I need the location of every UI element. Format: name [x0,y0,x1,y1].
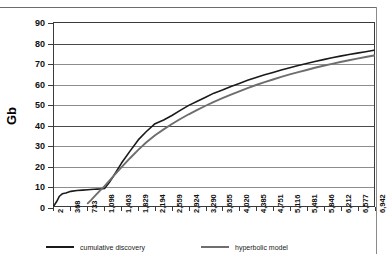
x-tick-mark [121,207,122,211]
x-tick-label: 2,924 [192,194,201,213]
x-tick-label: 2,194 [158,194,167,213]
y-tick-label: 10 [35,182,45,192]
x-tick-mark [189,207,190,211]
y-tick-label: 70 [35,59,45,69]
x-tick-label: 6,577 [361,194,370,213]
x-tick-mark [104,207,105,211]
legend-item-cumulative-discovery: cumulative discovery [46,240,145,254]
document-frame-right-border [376,7,377,254]
x-tick-mark [273,207,274,211]
y-tick-label: 20 [35,162,45,172]
x-tick-mark [138,207,139,211]
series-line-hyperbolic-model [88,56,374,204]
x-tick-mark [358,207,359,211]
y-tick-label: 60 [35,80,45,90]
y-tick-label: 0 [40,203,45,213]
y-tick-label: 30 [35,141,45,151]
x-tick-mark [341,207,342,211]
legend-item-hyperbolic-model: hyperbolic model [201,240,288,254]
y-tick-label: 80 [35,39,45,49]
x-tick-label: 6,212 [344,194,353,213]
x-tick-label: 1,463 [124,194,133,213]
x-tick-mark [375,207,376,211]
x-tick-label: 2 [56,209,65,213]
series-line-cumulative-discovery [54,50,374,205]
plot-area [53,22,375,207]
legend-label: cumulative discovery [80,244,145,251]
x-tick-mark [290,207,291,211]
x-tick-mark [222,207,223,211]
x-tick-mark [256,207,257,211]
x-tick-label: 6,942 [378,194,387,213]
chart-figure: Gb 0102030405060708090 23687331,0981,463… [0,0,389,261]
legend-swatch-icon [201,246,229,248]
y-axis-title: Gb [4,107,19,125]
x-tick-label: 5,116 [293,195,302,213]
legend-swatch-icon [46,246,74,248]
x-tick-mark [239,207,240,211]
x-tick-label: 4,751 [276,194,285,213]
series-lines [54,23,374,206]
document-frame-top-border [0,7,377,8]
y-tick-label: 50 [35,100,45,110]
x-tick-label: 1,829 [141,194,150,213]
x-tick-mark [155,207,156,211]
x-tick-mark [206,207,207,211]
x-tick-label: 5,846 [327,194,336,213]
chart-legend: cumulative discovery hyperbolic model [0,240,377,258]
y-axis: Gb 0102030405060708090 [0,22,53,208]
x-tick-label: 3,290 [209,194,218,213]
x-tick-label: 1,098 [107,194,116,213]
x-tick-mark [53,207,54,211]
x-tick-label: 4,385 [259,194,268,213]
x-tick-mark [307,207,308,211]
x-tick-mark [172,207,173,211]
y-tick-label: 90 [35,18,45,28]
x-tick-label: 733 [90,200,99,213]
x-tick-label: 4,020 [242,194,251,213]
x-tick-label: 368 [73,200,82,213]
x-tick-label: 2,559 [175,194,184,213]
x-tick-mark [324,207,325,211]
x-tick-mark [70,207,71,211]
legend-label: hyperbolic model [235,244,288,251]
x-tick-mark [87,207,88,211]
y-tick-label: 40 [35,121,45,131]
x-tick-label: 3,655 [225,194,234,213]
x-tick-label: 5,481 [310,194,319,213]
